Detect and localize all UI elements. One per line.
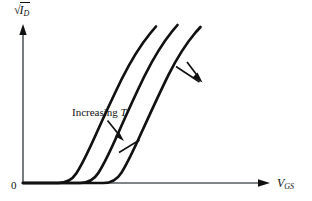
increasing-t-variable: T xyxy=(121,106,127,118)
x-axis-label-subscript: GS xyxy=(284,182,294,191)
y-axis-label-subscript: D xyxy=(24,9,30,18)
plot-canvas xyxy=(0,0,312,201)
curve-group xyxy=(23,25,201,183)
figure-root: √ID VGS 0 Increasing T xyxy=(0,0,312,201)
y-axis-label: √ID xyxy=(14,4,30,18)
upper-direction-arrow xyxy=(176,62,203,83)
increasing-t-annotation: Increasing T xyxy=(72,107,127,118)
right-arrow-icon xyxy=(258,179,270,186)
curve-t-high xyxy=(23,27,201,183)
up-arrow-icon xyxy=(19,24,26,35)
curve-t-low xyxy=(23,27,156,184)
axis-group xyxy=(19,24,270,187)
origin-label: 0 xyxy=(11,180,17,191)
increasing-t-text: Increasing xyxy=(72,106,121,118)
x-axis-label: VGS xyxy=(277,177,294,191)
